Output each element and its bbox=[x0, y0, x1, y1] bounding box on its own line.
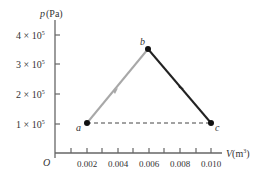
x-tick-label: 0.004 bbox=[108, 159, 129, 169]
y-tick-label: 4 × 105 bbox=[16, 30, 45, 41]
x-tick-label: 0.006 bbox=[139, 159, 160, 169]
point-c bbox=[208, 120, 214, 126]
origin-label: O bbox=[43, 157, 50, 168]
x-tick-label: 0.010 bbox=[201, 159, 222, 169]
x-axis-label: V(m3) bbox=[226, 148, 250, 160]
point-label-a: a bbox=[76, 122, 81, 133]
arrow-icon bbox=[178, 84, 184, 89]
pv-diagram: p(Pa) 4 × 105 3 × 105 2 × 105 1 × 105 O … bbox=[0, 0, 266, 176]
y-axis-label: p(Pa) bbox=[39, 8, 63, 20]
point-b bbox=[145, 46, 151, 52]
y-ticks bbox=[55, 35, 60, 124]
point-label-b: b bbox=[140, 36, 145, 47]
y-tick-label: 2 × 105 bbox=[16, 89, 45, 100]
x-tick-label: 0.008 bbox=[170, 159, 191, 169]
y-tick-label: 1 × 105 bbox=[16, 119, 45, 130]
point-a bbox=[84, 120, 90, 126]
point-label-c: c bbox=[215, 122, 220, 133]
y-tick-label: 3 × 105 bbox=[16, 59, 45, 70]
x-ticks bbox=[71, 148, 211, 153]
path-a-b bbox=[87, 49, 148, 123]
x-tick-label: 0.002 bbox=[77, 159, 97, 169]
